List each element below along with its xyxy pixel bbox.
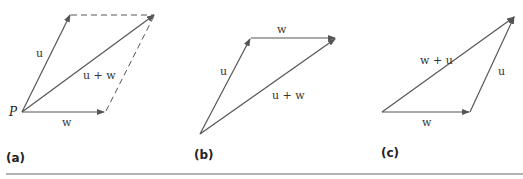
vector-addition-figure: P u w u + w (a) u w u + w (b) w + u u w … — [0, 0, 523, 179]
caption-a: (a) — [6, 151, 25, 165]
vector-u — [470, 17, 514, 112]
panel-c: w + u u w (c) — [381, 17, 514, 160]
label-u-plus-w: u + w — [272, 89, 305, 102]
vector-u-plus-w — [200, 39, 335, 134]
vector-u — [22, 15, 70, 112]
caption-b: (b) — [194, 148, 214, 162]
vector-u-plus-w — [22, 15, 154, 112]
caption-c: (c) — [381, 146, 399, 160]
vector-u — [200, 39, 250, 134]
panel-b: u w u + w (b) — [194, 23, 335, 162]
label-u: u — [498, 65, 505, 78]
panel-a: P u w u + w (a) — [6, 15, 154, 165]
label-w: w — [62, 116, 72, 129]
point-label-p: P — [8, 105, 18, 119]
label-u: u — [220, 65, 227, 78]
label-u-plus-w: u + w — [83, 69, 116, 82]
label-w-plus-u: w + u — [420, 54, 453, 67]
label-w: w — [422, 116, 432, 129]
label-w: w — [277, 23, 287, 36]
label-u: u — [36, 47, 43, 60]
dashed-edge-right — [106, 16, 154, 111]
